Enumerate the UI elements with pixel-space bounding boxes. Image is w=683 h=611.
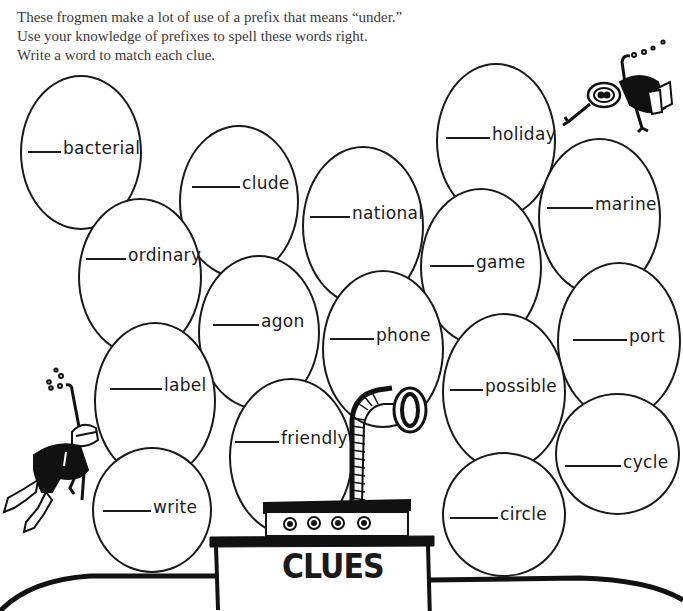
- diver-left-icon: [4, 368, 98, 532]
- clues-title: CLUES: [282, 545, 384, 585]
- submarine-periscope-icon: [264, 388, 426, 536]
- illustration-layer: [0, 0, 683, 611]
- diver-top-right-icon: [563, 40, 672, 132]
